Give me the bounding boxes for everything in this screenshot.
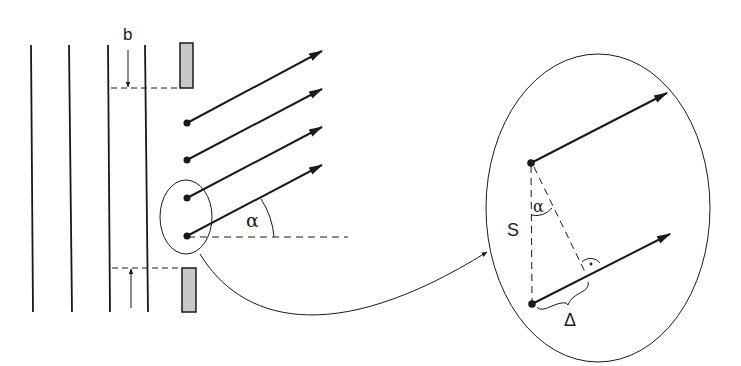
source-dot [184, 195, 191, 202]
secondary-sources [184, 120, 191, 240]
wavefront-line [108, 45, 110, 312]
wavefront-line [145, 45, 148, 312]
right-angle-dot [590, 263, 593, 266]
diffraction-diagram: b α S α Δ [0, 0, 741, 366]
perpendicular-dashed-line [534, 167, 586, 274]
wavefront-line [31, 45, 33, 312]
separation-label: S [507, 220, 519, 240]
angle-label: α [246, 209, 259, 231]
right-angle-arc [582, 258, 600, 263]
detail-rays [531, 93, 670, 304]
path-difference-brace [537, 282, 588, 309]
detail-ellipse [486, 54, 710, 362]
barrier-top [180, 43, 193, 88]
detail-source-dot [527, 159, 535, 167]
source-dot [184, 233, 191, 240]
ray-arrow [187, 89, 322, 160]
detail-angle-label: α [533, 197, 544, 216]
detail-ray-bottom [532, 234, 670, 304]
path-difference-label: Δ [564, 310, 576, 330]
ray-arrow [187, 51, 322, 123]
detail-ray-top [531, 93, 667, 163]
barrier-bottom [182, 268, 196, 312]
zoom-connector-arrow [200, 252, 487, 315]
separation-dashed-line [531, 166, 532, 301]
angle-arc [261, 199, 274, 237]
wavefronts [31, 45, 148, 312]
detail-source-dot [528, 300, 536, 308]
magnify-selection-ellipse [160, 180, 212, 254]
slit-barrier [180, 43, 196, 312]
source-dot [184, 157, 191, 164]
slit-width-label: b [123, 25, 132, 44]
ray-arrow [187, 127, 322, 198]
source-dot [184, 120, 191, 127]
wavefront-line [69, 45, 72, 312]
